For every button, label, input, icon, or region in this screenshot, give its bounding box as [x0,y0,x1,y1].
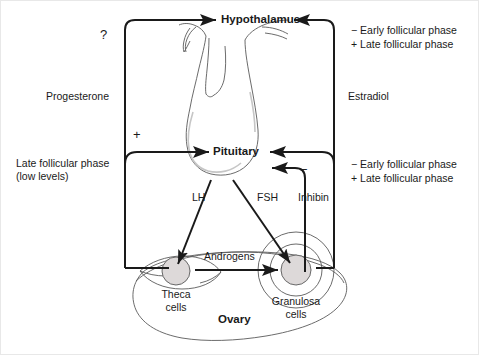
annotation-right-lower-positive: + Late follicular phase [351,172,453,185]
hormone-label-lh: LH [192,191,205,204]
hormone-label-inhibin: Inhibin [298,191,329,204]
progesterone-to-pituitary-path [125,152,209,164]
annotation-right-upper-negative: − Early follicular phase [351,24,457,37]
hormone-label-fsh: FSH [257,191,278,204]
progesterone-feedback-path [125,20,216,268]
minus-sign-inhibin: − [300,163,308,176]
question-mark-sign: ? [100,28,107,41]
node-label-pituitary: Pituitary [213,145,259,158]
diagram-canvas: Hypothalamus Pituitary Ovary ? + − Proge… [0,0,480,356]
annotation-left-lower-line1: Late follicular phase [16,157,109,170]
cell-label-granulosa-line2: cells [265,308,327,321]
annotation-left-lower-line2: (low levels) [16,170,69,183]
node-label-hypothalamus: Hypothalamus [221,13,300,26]
annotation-right-upper-positive: + Late follicular phase [351,38,453,51]
annotation-right-lower-negative: − Early follicular phase [351,158,457,171]
plus-sign-pituitary: + [133,128,141,141]
cell-label-theca-line2: cells [151,301,201,314]
node-label-ovary: Ovary [218,313,251,326]
cell-label-granulosa-line1: Granulosa [265,295,327,308]
cell-label-theca-line1: Theca [151,288,201,301]
hormone-label-estradiol: Estradiol [348,90,389,103]
hormone-label-androgens: Androgens [204,250,255,263]
hormone-label-progesterone: Progesterone [46,90,109,103]
estradiol-feedback-path [294,20,334,268]
